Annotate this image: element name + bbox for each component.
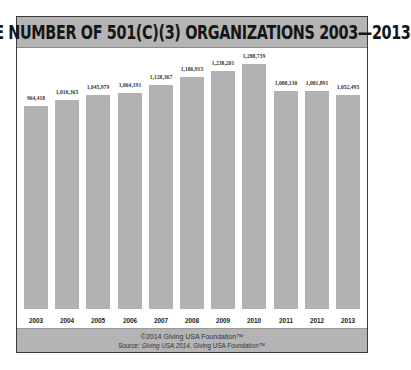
chart-title: THE NUMBER OF 501(C)(3) ORGANIZATIONS 20… bbox=[0, 20, 411, 44]
source-title: Giving USA 2014 bbox=[142, 342, 190, 349]
bar bbox=[149, 85, 173, 309]
bar bbox=[118, 93, 142, 309]
bar-group-2006: 1,064,191 bbox=[118, 79, 142, 309]
bar bbox=[211, 71, 235, 309]
bar-group-2005: 1,045,979 bbox=[86, 81, 110, 309]
bar-value-label: 1,045,979 bbox=[81, 83, 116, 91]
bar-group-2012: 1,081,891 bbox=[305, 77, 329, 309]
x-tick-label: 2011 bbox=[274, 316, 298, 325]
bar-group-2011: 1,080,130 bbox=[274, 77, 298, 309]
x-tick-label: 2013 bbox=[336, 316, 360, 325]
bar-value-label: 1,288,739 bbox=[237, 52, 272, 60]
bar-group-2003: 964,418 bbox=[24, 92, 48, 309]
title-band: THE NUMBER OF 501(C)(3) ORGANIZATIONS 20… bbox=[17, 17, 367, 48]
bar bbox=[86, 95, 110, 309]
bar bbox=[24, 106, 48, 309]
x-tick-label: 2012 bbox=[305, 316, 329, 325]
bar-group-2007: 1,128,367 bbox=[149, 71, 173, 309]
x-tick-label: 2010 bbox=[242, 316, 266, 325]
bar-value-label: 1,238,201 bbox=[206, 59, 241, 67]
bar bbox=[55, 100, 79, 309]
source-text: Source: Giving USA 2014, Giving USA Foun… bbox=[119, 341, 266, 350]
bar-value-label: 1,081,891 bbox=[299, 79, 334, 87]
copyright-text: ©2014 Giving USA Foundation™ bbox=[141, 332, 243, 341]
bar bbox=[305, 91, 329, 309]
x-tick-label: 2009 bbox=[211, 316, 235, 325]
source-prefix: Source: bbox=[119, 342, 142, 349]
bar-group-2004: 1,010,365 bbox=[55, 86, 79, 309]
x-tick-label: 2006 bbox=[118, 316, 142, 325]
source-suffix: , Giving USA Foundation™ bbox=[190, 342, 265, 349]
x-tick-label: 2005 bbox=[86, 316, 110, 325]
bar-group-2008: 1,186,915 bbox=[180, 63, 204, 309]
bar-value-label: 1,052,495 bbox=[330, 83, 365, 91]
bar-group-2009: 1,238,201 bbox=[211, 57, 235, 309]
plot-area: 964,41820031,010,36520041,045,97920051,0… bbox=[17, 47, 367, 329]
x-tick-label: 2003 bbox=[24, 316, 48, 325]
bar-group-2010: 1,288,739 bbox=[242, 50, 266, 309]
bar bbox=[336, 95, 360, 309]
bar bbox=[274, 91, 298, 309]
bar-value-label: 1,064,191 bbox=[112, 81, 147, 89]
bar-group-2013: 1,052,495 bbox=[336, 81, 360, 309]
bar-value-label: 964,418 bbox=[18, 94, 53, 102]
bar-value-label: 1,186,915 bbox=[174, 65, 209, 73]
bar-value-label: 1,128,367 bbox=[143, 73, 178, 81]
x-tick-label: 2004 bbox=[55, 316, 79, 325]
bar-value-label: 1,080,130 bbox=[268, 79, 303, 87]
x-tick-label: 2007 bbox=[149, 316, 173, 325]
footer-band: ©2014 Giving USA Foundation™ Source: Giv… bbox=[17, 328, 367, 352]
bar bbox=[180, 77, 204, 309]
chart-frame: THE NUMBER OF 501(C)(3) ORGANIZATIONS 20… bbox=[16, 16, 368, 353]
bar bbox=[242, 64, 266, 309]
x-tick-label: 2008 bbox=[180, 316, 204, 325]
